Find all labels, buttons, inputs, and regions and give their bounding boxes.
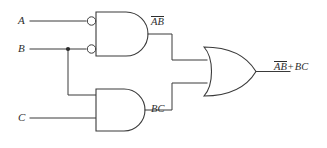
signal-label-and-output: BC bbox=[151, 104, 164, 115]
inversion-bubble-a-icon bbox=[87, 17, 95, 25]
input-label-c: C bbox=[18, 112, 25, 123]
signal-label-and-output-text: BC bbox=[151, 103, 164, 114]
inversion-bubble-b-icon bbox=[87, 45, 95, 53]
wire-b-branch bbox=[68, 49, 96, 95]
gate-or-body bbox=[204, 47, 256, 96]
signal-label-nand-output: AB bbox=[151, 17, 164, 28]
signal-label-final-output: AB+BC bbox=[274, 62, 308, 73]
gate-and-inverted-inputs-body bbox=[96, 12, 148, 56]
input-label-a: A bbox=[18, 15, 25, 26]
wire-gate1-output bbox=[148, 34, 207, 60]
input-label-b: B bbox=[18, 43, 25, 54]
signal-label-nand-output-overbar: AB bbox=[151, 17, 164, 28]
gate-and-body bbox=[96, 89, 145, 131]
final-output-operator: + bbox=[287, 61, 295, 72]
final-output-plain-term: BC bbox=[295, 61, 308, 72]
junction-dot-b bbox=[66, 47, 70, 51]
final-output-overbar-term: AB bbox=[274, 62, 287, 73]
logic-circuit-diagram: A B C AB BC AB+BC bbox=[0, 0, 327, 148]
